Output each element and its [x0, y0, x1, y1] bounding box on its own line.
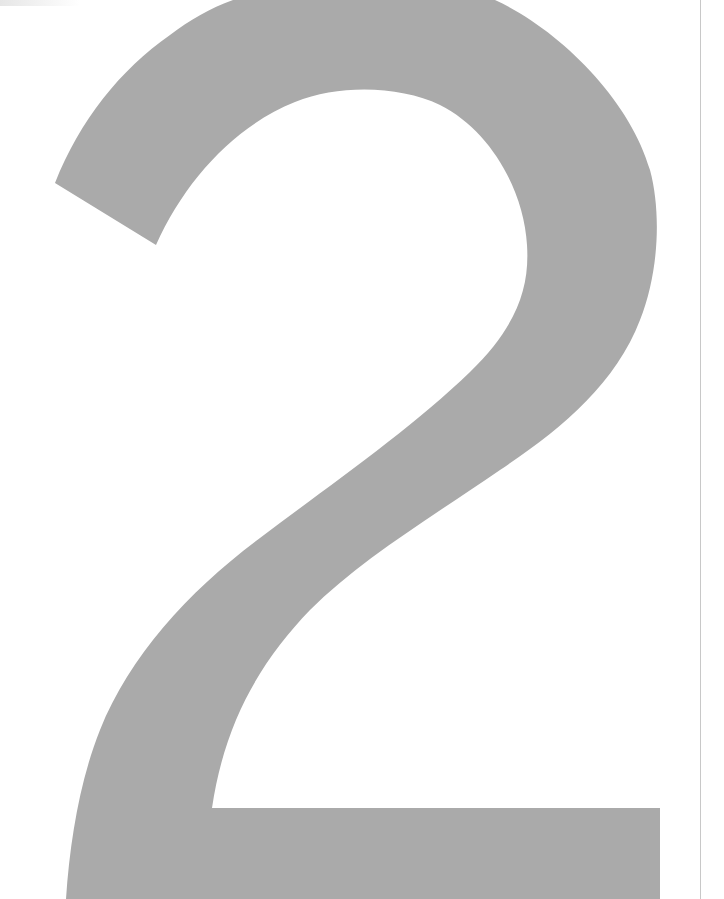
numeral-two-glyph — [0, 0, 724, 899]
page: 2 — [0, 0, 724, 899]
page-edge-line — [700, 0, 701, 899]
